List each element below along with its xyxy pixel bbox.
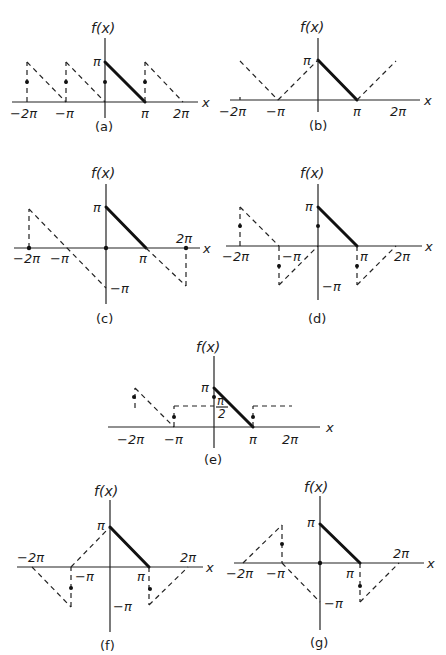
y-axis-label: f(x) [196,339,220,355]
caption: (c) [96,311,113,326]
tick-two-pi: 2π [393,546,409,561]
x-axis-label: x [423,93,432,108]
solid-segment [320,524,360,563]
tick-y-neg-pi: −π [324,596,343,611]
midpoint-dot [104,246,108,250]
midpoint-dot [172,415,176,419]
y-axis-label: f(x) [91,20,115,36]
y-axis-label: f(x) [300,165,324,181]
y-axis-label: f(x) [304,479,328,495]
midpoint-dot [69,586,73,590]
tick-neg-two-pi: −2π [13,251,40,266]
midpoint-dot [25,80,29,84]
tick-y-neg-pi: −π [322,279,341,294]
tick-pi: π [360,249,368,264]
tick-two-pi: 2π [390,104,406,119]
tick-two-pi: 2π [394,249,410,264]
solid-segment [318,60,357,100]
tick-y-half-pi-denominator: 2 [218,407,226,421]
panel-c: f(x) x π −π −2π −π π 2π (c) [13,165,211,326]
midpoint-dot [316,224,320,228]
panel-b: f(x) x π −2π −π π 2π (b) [219,19,432,133]
tick-neg-pi: −π [50,251,69,266]
midpoint-dot [132,395,136,399]
tick-two-pi: 2π [176,231,192,246]
caption: (e) [204,452,222,467]
caption: (a) [95,119,113,134]
tick-neg-two-pi: −2π [10,106,37,121]
x-axis-label: x [201,95,210,110]
tick-y-pi: π [97,518,105,533]
tick-y-pi: π [307,515,315,530]
tick-neg-pi: −π [282,249,301,264]
tick-neg-two-pi: −2π [226,566,253,581]
midpoint-dot [280,542,284,546]
tick-y-pi: π [93,200,101,215]
midpoint-dot [251,415,255,419]
tick-y-half-pi-numerator: π [217,394,225,408]
tick-two-pi: 2π [180,550,196,565]
tick-neg-two-pi: −2π [117,432,144,447]
midpoint-dot [64,80,68,84]
tick-neg-pi: −π [266,104,285,119]
tick-neg-pi: −π [75,569,94,584]
tick-pi: π [353,104,361,119]
tick-pi: π [249,432,257,447]
midpoint-dot [148,587,152,591]
x-axis-label: x [205,560,214,575]
panel-g: f(x) x π −π −2π −π π 2π (g) [226,479,435,650]
tick-two-pi: 2π [173,106,189,121]
tick-neg-two-pi: −2π [17,550,44,565]
tick-neg-two-pi: −2π [219,104,246,119]
tick-y-pi: π [93,54,101,69]
panel-f: f(x) x π −π −2π −π π 2π (f) [17,483,214,653]
y-axis-label: f(x) [91,165,115,181]
caption: (b) [309,118,327,133]
midpoint-dot [143,80,147,84]
tick-neg-two-pi: −2π [222,249,249,264]
tick-y-pi: π [305,199,313,214]
panel-e: f(x) x π π 2 −2π −π π 2π (e) [108,339,334,467]
x-axis-label: x [325,420,334,435]
x-axis-label: x [202,241,211,256]
caption: (f) [100,638,115,653]
caption: (g) [310,635,328,650]
tick-y-pi: π [303,53,311,68]
midpoint-dot [184,246,188,250]
midpoint-dot [238,224,242,228]
tick-y-neg-pi: −π [113,599,132,614]
midpoint-dot [318,561,322,565]
y-axis-label: f(x) [94,483,118,499]
caption: (d) [308,311,326,326]
x-axis-label: x [424,239,433,254]
tick-pi: π [137,569,145,584]
solid-segment [106,207,146,248]
midpoint-dot [27,246,31,250]
tick-neg-pi: −π [164,432,183,447]
y-axis-label: f(x) [300,19,324,35]
tick-two-pi: 2π [282,432,298,447]
midpoint-dot [103,80,107,84]
panel-d: f(x) x π −π −2π −π π 2π (d) [222,165,433,326]
panel-a: f(x) x π −2π −π π 2π (a) [10,20,210,134]
tick-neg-pi: −π [55,106,74,121]
solid-segment [110,527,149,567]
solid-segment [105,62,145,102]
fourier-extensions-figure: f(x) x π −2π −π π 2π (a) f(x) x π −2π −π… [0,0,446,655]
midpoint-dot [355,264,359,268]
x-axis-label: x [426,556,435,571]
tick-pi: π [346,566,354,581]
midpoint-dot [277,264,281,268]
tick-neg-pi: −π [266,566,285,581]
midpoint-dot [212,395,216,399]
midpoint-dot [358,584,362,588]
tick-pi: π [141,106,149,121]
tick-y-pi: π [201,380,209,395]
solid-segment [318,207,357,246]
tick-pi: π [139,251,147,266]
tick-y-neg-pi: −π [110,281,129,296]
